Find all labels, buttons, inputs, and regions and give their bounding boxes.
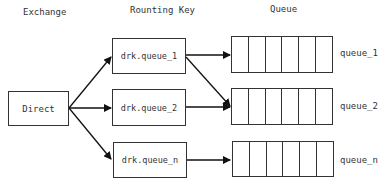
queue-label: queue_1 (340, 48, 378, 58)
exchange-direct-node: Direct (8, 91, 69, 126)
queue-cell (299, 89, 316, 124)
routing-key-node: drk.queue_2 (112, 89, 186, 126)
queue-cell (282, 89, 299, 124)
edge-direct-key1 (69, 57, 111, 108)
queue-label: queue_n (340, 155, 378, 165)
queue-cell (249, 37, 266, 72)
queue-cell (317, 142, 333, 176)
queue-cell (283, 142, 300, 176)
queue-label: queue_2 (340, 101, 378, 111)
queue-cell (250, 142, 267, 176)
queue-cell (266, 89, 283, 124)
edge-key1-queue2 (186, 57, 230, 106)
queue-cell (232, 89, 249, 124)
queue-cell (282, 37, 299, 72)
queue-cell (300, 142, 317, 176)
edge-direct-keyn (69, 108, 111, 159)
routing-key-node: drk.queue_1 (112, 38, 186, 74)
queue-node (231, 88, 333, 125)
queue-cell (299, 37, 316, 72)
queue-cell (233, 142, 250, 176)
routing-key-label: drk.queue_1 (121, 51, 177, 61)
queue-cell (267, 142, 284, 176)
routing-key-label: drk.queue_2 (121, 103, 177, 113)
queue-cell (232, 37, 249, 72)
exchange-direct-label: Direct (22, 104, 55, 114)
queue-node (232, 141, 334, 177)
routing-key-label: drk.queue_n (122, 155, 178, 165)
queue-cell (266, 37, 283, 72)
queue-cell (316, 37, 332, 72)
queue-cell (249, 89, 266, 124)
routing-key-node: drk.queue_n (113, 142, 187, 178)
queue-node (231, 36, 333, 73)
queue-cell (316, 89, 332, 124)
